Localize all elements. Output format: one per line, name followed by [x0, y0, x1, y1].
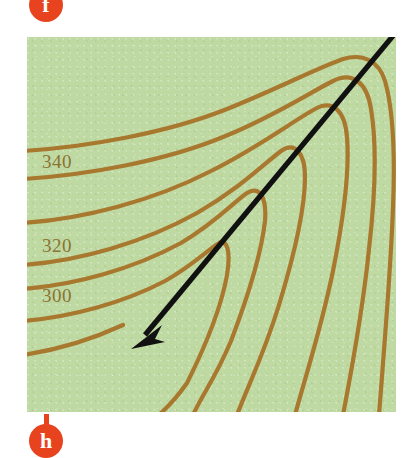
- contour-label-320: 320: [42, 236, 72, 255]
- contour-label-340: 340: [42, 152, 72, 171]
- contour-line-2: [27, 77, 375, 412]
- panel-label-h: h: [29, 424, 63, 458]
- gradient-arrow: [131, 37, 396, 349]
- panel-label-f: f: [29, 0, 63, 22]
- contour-map-panel: 340 320 300: [27, 37, 396, 412]
- contour-line-group: [27, 57, 394, 412]
- contour-label-300: 300: [42, 286, 72, 305]
- contour-line-7: [27, 325, 123, 355]
- panel-label-h-text: h: [40, 428, 52, 454]
- contour-lines-svg: [27, 37, 396, 412]
- panel-label-f-text: f: [42, 0, 49, 18]
